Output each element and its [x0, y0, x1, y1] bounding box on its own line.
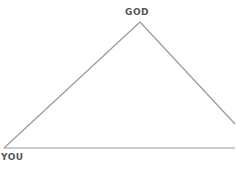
label-you: YOU	[1, 152, 24, 162]
triangle-shape	[0, 0, 236, 170]
label-god: GOD	[125, 7, 149, 17]
triangle-diagram: GOD YOU	[0, 0, 236, 170]
left-edge	[4, 22, 140, 148]
right-edge	[140, 22, 235, 124]
